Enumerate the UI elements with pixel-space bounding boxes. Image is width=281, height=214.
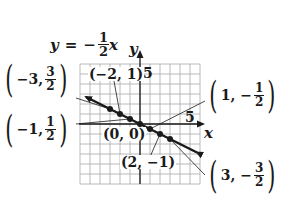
data-point	[107, 106, 113, 112]
equation-label: y = − 1 2 x	[50, 31, 118, 58]
y-tick-5: 5	[143, 66, 153, 80]
equation-var: x	[109, 36, 118, 54]
label-point-3: (3, − 32)	[206, 160, 279, 190]
label-num: 1	[254, 82, 264, 96]
label-x: −3,	[17, 72, 43, 86]
data-point	[157, 131, 163, 137]
label-num: 3	[254, 162, 264, 176]
data-point	[167, 136, 173, 142]
graph-figure: y = − 1 2 x y x 5 5 (−3, 32) (−1, 12) (1…	[0, 0, 281, 214]
equation-numerator: 1	[98, 31, 109, 45]
label-num: 3	[45, 66, 55, 80]
equation-lhs: y	[50, 36, 59, 54]
label-den: 2	[254, 176, 264, 189]
label-x: −1,	[17, 122, 43, 136]
equation-equals: =	[65, 36, 78, 54]
equation-sign: −	[83, 36, 96, 54]
equation-denominator: 2	[98, 45, 109, 58]
label-point-m2: (−2, 1)	[88, 67, 144, 81]
data-point	[127, 116, 133, 122]
label-point-2: (2, −1)	[120, 155, 176, 169]
label-x: 3, −	[221, 168, 252, 182]
label-point-0: (0, 0)	[102, 127, 146, 141]
label-point-m1: (−1, 12)	[2, 114, 70, 144]
label-point-m3: (−3, 32)	[2, 64, 70, 94]
label-den: 2	[254, 96, 264, 109]
label-den: 2	[45, 130, 55, 143]
y-axis-label: y	[129, 40, 138, 58]
x-tick-5: 5	[185, 110, 195, 124]
x-axis-label: x	[204, 124, 213, 142]
label-num: 1	[45, 116, 55, 130]
label-den: 2	[45, 80, 55, 93]
label-x: 1, −	[221, 88, 252, 102]
data-point	[147, 126, 153, 132]
data-point	[117, 111, 123, 117]
label-point-1: (1, − 12)	[206, 80, 279, 110]
